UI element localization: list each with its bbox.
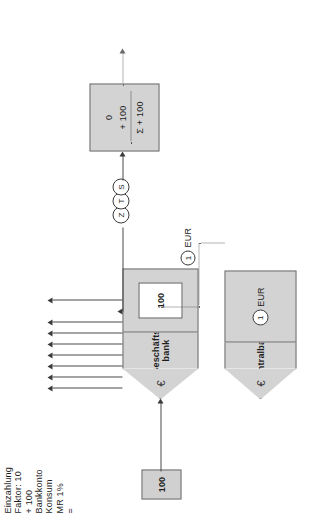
multiplier-arrow-line bbox=[53, 365, 123, 366]
euro-icon: € bbox=[255, 380, 267, 386]
minimum-reserve-equals: = bbox=[65, 0, 75, 513]
bank-account-label: Bankkonto bbox=[34, 0, 44, 513]
payment-line-to-account-head bbox=[120, 151, 126, 156]
multiplier-arrow-head bbox=[48, 330, 53, 336]
central-bank-euro-tip: € bbox=[225, 368, 297, 399]
payment-step-label-t: T bbox=[117, 198, 125, 203]
commercial-bank-reserve-box: 100 bbox=[139, 282, 183, 318]
multiplier-label: Faktor: 10 bbox=[13, 0, 23, 513]
central-bank-name: Zentralbank bbox=[225, 342, 297, 368]
payment-line-to-account bbox=[123, 154, 124, 180]
minimum-reserve-label: MR 1% bbox=[54, 0, 64, 513]
multiplier-arrow-head bbox=[48, 374, 53, 380]
bank-account-row-sum: Σ + 100 bbox=[135, 101, 145, 133]
multiplier-arrow-line bbox=[53, 299, 123, 300]
consumption-dotted-line bbox=[123, 51, 124, 85]
consumption-label: Konsum bbox=[44, 0, 54, 513]
deposit-amount-label: 100 bbox=[156, 476, 166, 492]
bank-account-box: 0 + 100 Σ + 100 bbox=[90, 83, 160, 151]
multiplier-arrow-line bbox=[53, 376, 123, 377]
diagram-canvas: 100 Einzahlung € Geschäfts- bank 100 bbox=[3, 0, 316, 513]
multiplier-arrow-head bbox=[48, 341, 53, 347]
central-bank-body: 1 EUR bbox=[225, 270, 297, 342]
multiplier-arrow-line bbox=[53, 387, 123, 388]
multiplier-arrow-head bbox=[48, 385, 53, 391]
multiplier-arrow-head bbox=[48, 363, 53, 369]
multiplier-arrow-head bbox=[48, 319, 53, 325]
bank-account-row-credit: + 100 bbox=[117, 105, 127, 129]
commercial-bank-name: Geschäfts- bank bbox=[123, 332, 199, 368]
multiplier-arrow-head bbox=[48, 352, 53, 358]
commercial-bank-reserve-value: 100 bbox=[155, 292, 165, 308]
multiplier-arrow-line bbox=[53, 354, 123, 355]
central-bank-amount-value: 1 bbox=[257, 315, 265, 319]
payment-line-head bbox=[118, 308, 123, 314]
commercial-bank-shape: € Geschäfts- bank 100 bbox=[123, 268, 199, 399]
multiplier-arrow-line bbox=[53, 332, 123, 333]
commercial-bank-name-line2: bank bbox=[161, 326, 171, 375]
multiplier-arrow-head bbox=[48, 297, 53, 303]
commercial-bank-name-line1: Geschäfts- bbox=[150, 326, 160, 375]
payment-amount-label: + 100 bbox=[23, 0, 33, 513]
multiplier-arrow-line bbox=[53, 321, 123, 322]
minimum-reserve-line-upper bbox=[199, 243, 200, 307]
minimum-reserve-amount-group: 1 EUR bbox=[181, 227, 196, 265]
deposit-arrow-line bbox=[161, 401, 162, 471]
payment-step-circle-s: S bbox=[113, 178, 130, 195]
euro-icon: € bbox=[155, 380, 167, 386]
minimum-reserve-amount-unit: EUR bbox=[183, 227, 193, 247]
commercial-bank-body: 100 bbox=[123, 268, 199, 332]
payment-step-label-z: Z bbox=[117, 212, 125, 217]
minimum-reserve-line-vertical bbox=[161, 306, 199, 307]
deposit-label: Einzahlung bbox=[3, 0, 13, 513]
consumption-arrow-head bbox=[120, 48, 126, 53]
commercial-bank-euro-tip: € bbox=[123, 368, 199, 399]
bank-account-divider bbox=[131, 91, 132, 143]
payment-line bbox=[123, 227, 124, 311]
central-bank-amount-unit: EUR bbox=[255, 287, 265, 307]
minimum-reserve-amount-value: 1 bbox=[184, 255, 192, 259]
central-bank-amount-circle: 1 bbox=[253, 309, 269, 325]
payment-step-label-s: S bbox=[117, 184, 125, 189]
bank-account-row-opening: 0 bbox=[104, 114, 114, 119]
multiplier-arrow-line bbox=[53, 343, 123, 344]
minimum-reserve-line-down bbox=[199, 242, 225, 243]
central-bank-shape: € Zentralbank 1 EUR bbox=[225, 270, 297, 399]
minimum-reserve-amount-circle: 1 bbox=[181, 250, 196, 265]
deposit-amount-box: 100 bbox=[142, 469, 182, 499]
